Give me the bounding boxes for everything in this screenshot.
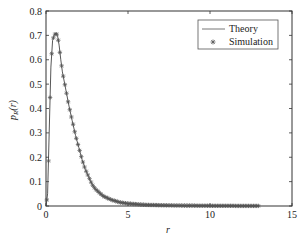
svg-text:0.6: 0.6 xyxy=(30,54,43,65)
svg-text:0: 0 xyxy=(44,209,49,220)
svg-text:0.3: 0.3 xyxy=(30,127,43,138)
legend: Theory Simulation xyxy=(198,20,278,49)
chart: 05101500.10.20.30.40.50.60.70.8 r pR(r) … xyxy=(0,0,302,240)
svg-text:pR(r): pR(r) xyxy=(7,99,20,121)
x-axis-label: r xyxy=(166,224,170,235)
y-axis-label: pR(r) xyxy=(7,99,20,121)
svg-text:5: 5 xyxy=(126,209,131,220)
svg-text:0: 0 xyxy=(37,201,42,212)
svg-text:0.5: 0.5 xyxy=(30,79,43,90)
svg-text:0.2: 0.2 xyxy=(30,152,43,163)
legend-asterisk-icon xyxy=(211,40,216,45)
legend-simulation-label: Simulation xyxy=(229,36,273,47)
svg-text:10: 10 xyxy=(205,209,215,220)
svg-text:0.4: 0.4 xyxy=(30,103,43,114)
legend-theory-label: Theory xyxy=(229,23,258,34)
svg-text:0.8: 0.8 xyxy=(30,6,43,17)
svg-text:15: 15 xyxy=(287,209,297,220)
svg-text:0.1: 0.1 xyxy=(30,176,43,187)
svg-text:0.7: 0.7 xyxy=(30,30,43,41)
